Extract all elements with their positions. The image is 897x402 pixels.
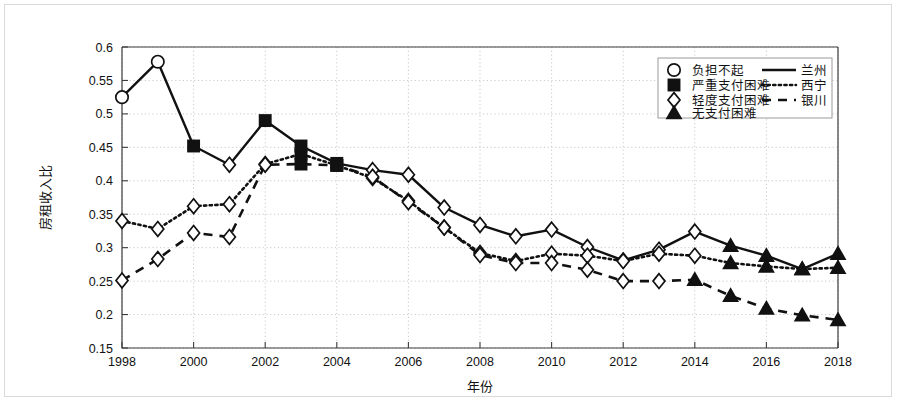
line-chart: 0.150.20.250.30.350.40.450.50.550.619982…: [0, 0, 897, 402]
x-tick-label: 2004: [323, 355, 351, 369]
chart-figure: 0.150.20.250.30.350.40.450.50.550.619982…: [0, 0, 897, 402]
series-2-triangle-marker: [759, 302, 773, 314]
y-tick-label: 0.5: [96, 107, 113, 121]
y-tick-label: 0.3: [96, 241, 113, 255]
series-1-diamond-marker: [188, 199, 200, 214]
series-2-diamond-marker: [438, 220, 450, 235]
x-axis-title: 年份: [467, 379, 493, 394]
series-0-diamond-marker: [689, 224, 701, 239]
series-0-diamond-marker: [546, 222, 558, 237]
series-0-triangle-marker: [831, 247, 845, 259]
legend-marker-label-2: 轻度支付困难: [692, 93, 770, 108]
legend-line-label-1: 西宁: [801, 78, 827, 93]
y-tick-label: 0.45: [89, 141, 113, 155]
series-1-diamond-marker: [689, 248, 701, 263]
series-0-circle-marker: [116, 91, 128, 103]
series-2-diamond-marker: [116, 273, 128, 288]
legend-marker-label-0: 负担不起: [692, 64, 744, 78]
series-2-triangle-marker: [724, 289, 738, 301]
x-tick-label: 2006: [394, 355, 422, 369]
series-2-square-marker: [295, 158, 306, 169]
series-2-diamond-marker: [653, 274, 665, 289]
legend-marker-label-3: 无支付困难: [692, 107, 757, 121]
series-0-square-marker: [260, 115, 271, 126]
series-1-diamond-marker: [152, 222, 164, 237]
y-tick-label: 0.55: [89, 74, 113, 88]
series-2-diamond-marker: [223, 230, 235, 245]
x-tick-label: 2008: [466, 355, 494, 369]
series-0-circle-marker: [152, 56, 164, 68]
y-tick-label: 0.4: [96, 174, 113, 188]
y-tick-label: 0.25: [89, 275, 113, 289]
series-1-diamond-marker: [223, 197, 235, 212]
y-tick-label: 0.35: [89, 208, 113, 222]
x-tick-label: 2014: [681, 355, 709, 369]
series-2-diamond-marker: [546, 256, 558, 271]
series-2-square-marker: [331, 160, 342, 171]
series-0-square-marker: [188, 140, 199, 151]
x-tick-label: 1998: [108, 355, 136, 369]
series-0-diamond-marker: [474, 218, 486, 233]
series-2-diamond-marker: [581, 262, 593, 277]
x-tick-label: 2010: [538, 355, 566, 369]
y-tick-label: 0.6: [96, 41, 113, 55]
series-1-diamond-marker: [617, 254, 629, 269]
series-2-diamond-marker: [617, 274, 629, 289]
x-tick-label: 2016: [752, 355, 780, 369]
legend-marker-1-square-marker: [668, 79, 679, 90]
x-tick-label: 2018: [824, 355, 852, 369]
series-0-diamond-marker: [510, 229, 522, 244]
x-tick-label: 2012: [609, 355, 637, 369]
series-1-diamond-marker: [116, 214, 128, 229]
legend-line-label-2: 银川: [801, 94, 827, 108]
y-tick-label: 0.15: [89, 342, 113, 356]
legend-marker-0-circle-marker: [668, 64, 680, 76]
series-2-diamond-marker: [152, 252, 164, 267]
series-2-diamond-marker: [188, 226, 200, 241]
legend-marker-label-1: 严重支付困难: [692, 78, 770, 93]
legend-line-label-0: 兰州: [801, 64, 827, 78]
y-tick-label: 0.2: [96, 308, 113, 322]
y-axis-title: 房租收入比: [38, 165, 53, 230]
series-2-diamond-marker: [402, 195, 414, 210]
x-tick-label: 2000: [180, 355, 208, 369]
x-tick-label: 2002: [251, 355, 279, 369]
